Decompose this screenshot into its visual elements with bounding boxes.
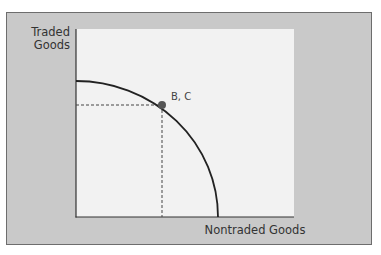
plot-area [76, 29, 294, 217]
point-bc [158, 101, 166, 109]
point-label: B, C [171, 91, 191, 102]
ppf-diagram: B, C [0, 0, 381, 255]
x-axis-label: Nontraded Goods [200, 223, 310, 237]
